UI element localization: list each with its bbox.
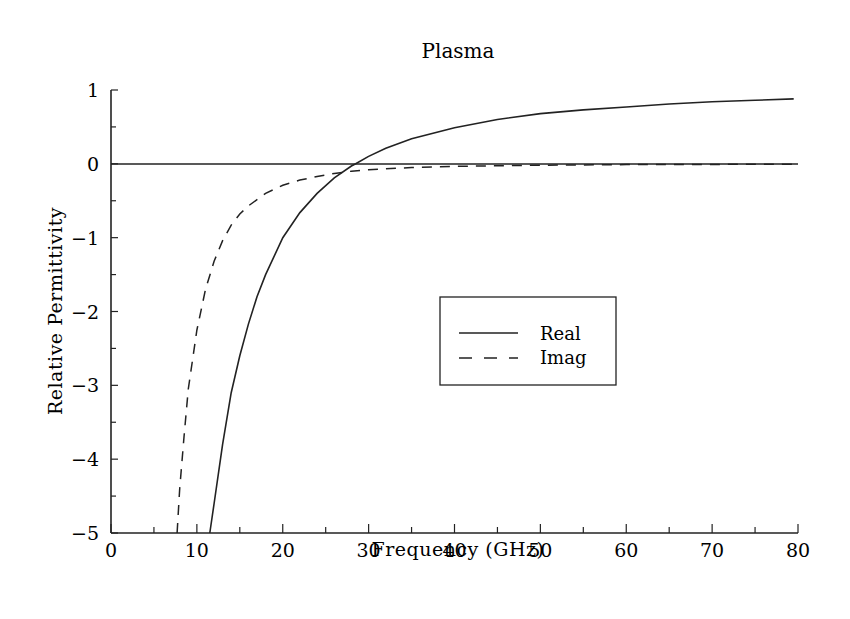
y-tick-label: −2 [71, 301, 99, 323]
x-tick-label: 70 [700, 539, 724, 561]
x-tick-label: 60 [614, 539, 638, 561]
y-tick-label: −4 [71, 448, 99, 470]
legend-box [440, 297, 616, 385]
legend-imag-label: Imag [540, 347, 586, 368]
x-tick-label: 10 [185, 539, 209, 561]
legend: Real Imag [440, 297, 616, 385]
y-axis-label: Relative Permittivity [44, 207, 66, 415]
chart-title: Plasma [422, 39, 495, 63]
y-tick-label: 1 [87, 79, 99, 101]
y-tick-label: −1 [71, 227, 99, 249]
x-tick-label: 20 [271, 539, 295, 561]
y-tick-label: −5 [71, 522, 99, 544]
y-tick-label: 0 [87, 153, 99, 175]
legend-real-label: Real [540, 323, 581, 344]
x-tick-label: 80 [786, 539, 810, 561]
x-tick-label: 0 [105, 539, 117, 561]
chart: Plasma 01020304050607080 10−1−2−3−4−5 Fr… [0, 0, 850, 619]
x-axis-label: Frequency (GHz) [372, 538, 545, 560]
y-tick-label: −3 [71, 374, 99, 396]
